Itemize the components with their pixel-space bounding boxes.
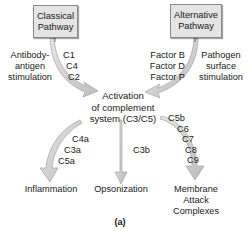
- activation-to-opsonization-arrow: [115, 120, 127, 184]
- activation-line2: of complement: [86, 102, 160, 114]
- trigger-line1: Antibody-: [8, 50, 52, 61]
- mac-outcome-label: Membrane Attack Complexes: [168, 184, 224, 217]
- component-c7: C7: [182, 134, 199, 145]
- component-c3b: C3b: [133, 145, 150, 156]
- component-c5b: C5b: [168, 113, 199, 124]
- component-c2: C2: [68, 72, 80, 83]
- panel-label: (a): [108, 217, 132, 228]
- mac-line1: Membrane: [168, 184, 224, 195]
- alternative-pathway-line2: Pathway: [178, 21, 214, 32]
- opsonization-components-label: C3b: [133, 145, 150, 156]
- inflammation-outcome-label: Inflammation: [22, 184, 80, 195]
- trigger-line2: antigen: [8, 61, 52, 72]
- inflammation-text: Inflammation: [25, 184, 78, 194]
- component-c8: C8: [185, 145, 199, 156]
- activation-line3: system (C3/C5): [86, 113, 160, 125]
- component-c6: C6: [177, 124, 199, 135]
- classical-pathway-box: Classical Pathway: [33, 5, 78, 38]
- opsonization-outcome-label: Opsonization: [91, 184, 151, 195]
- component-c9: C9: [187, 155, 199, 166]
- component-c3a: C3a: [64, 145, 89, 156]
- alt-trigger-line2: surface: [197, 61, 245, 72]
- factor-p: Factor P: [143, 72, 185, 83]
- alternative-factors-label: Factor B Factor D Factor P: [143, 50, 185, 83]
- alt-trigger-line3: stimulation: [197, 72, 245, 83]
- alternative-pathway-box: Alternative Pathway: [170, 4, 222, 38]
- mac-components-label: C5b C6 C7 C8 C9: [168, 113, 199, 166]
- component-c4: C4: [66, 61, 80, 72]
- classical-pathway-line1: Classical: [37, 11, 74, 22]
- antibody-antigen-stimulation-label: Antibody- antigen stimulation: [8, 50, 52, 83]
- trigger-line3: stimulation: [8, 72, 52, 83]
- classical-pathway-line2: Pathway: [38, 22, 74, 33]
- alt-trigger-line1: Pathogen: [197, 50, 245, 61]
- component-c1: C1: [63, 50, 80, 61]
- opsonization-text: Opsonization: [94, 184, 148, 194]
- factor-d: Factor D: [143, 61, 185, 72]
- alternative-pathway-line1: Alternative: [174, 10, 218, 21]
- component-c5a: C5a: [58, 156, 89, 167]
- mac-line3: Complexes: [168, 206, 224, 217]
- activation-node-label: Activation of complement system (C3/C5): [86, 90, 160, 125]
- classical-components-label: C1 C4 C2: [63, 50, 80, 83]
- pathogen-surface-stimulation-label: Pathogen surface stimulation: [197, 50, 245, 83]
- inflammation-components-label: C4a C3a C5a: [58, 134, 89, 167]
- activation-line1: Activation: [86, 90, 160, 102]
- component-c4a: C4a: [72, 134, 89, 145]
- factor-b: Factor B: [143, 50, 185, 61]
- panel-label-text: (a): [114, 217, 125, 227]
- mac-line2: Attack: [168, 195, 224, 206]
